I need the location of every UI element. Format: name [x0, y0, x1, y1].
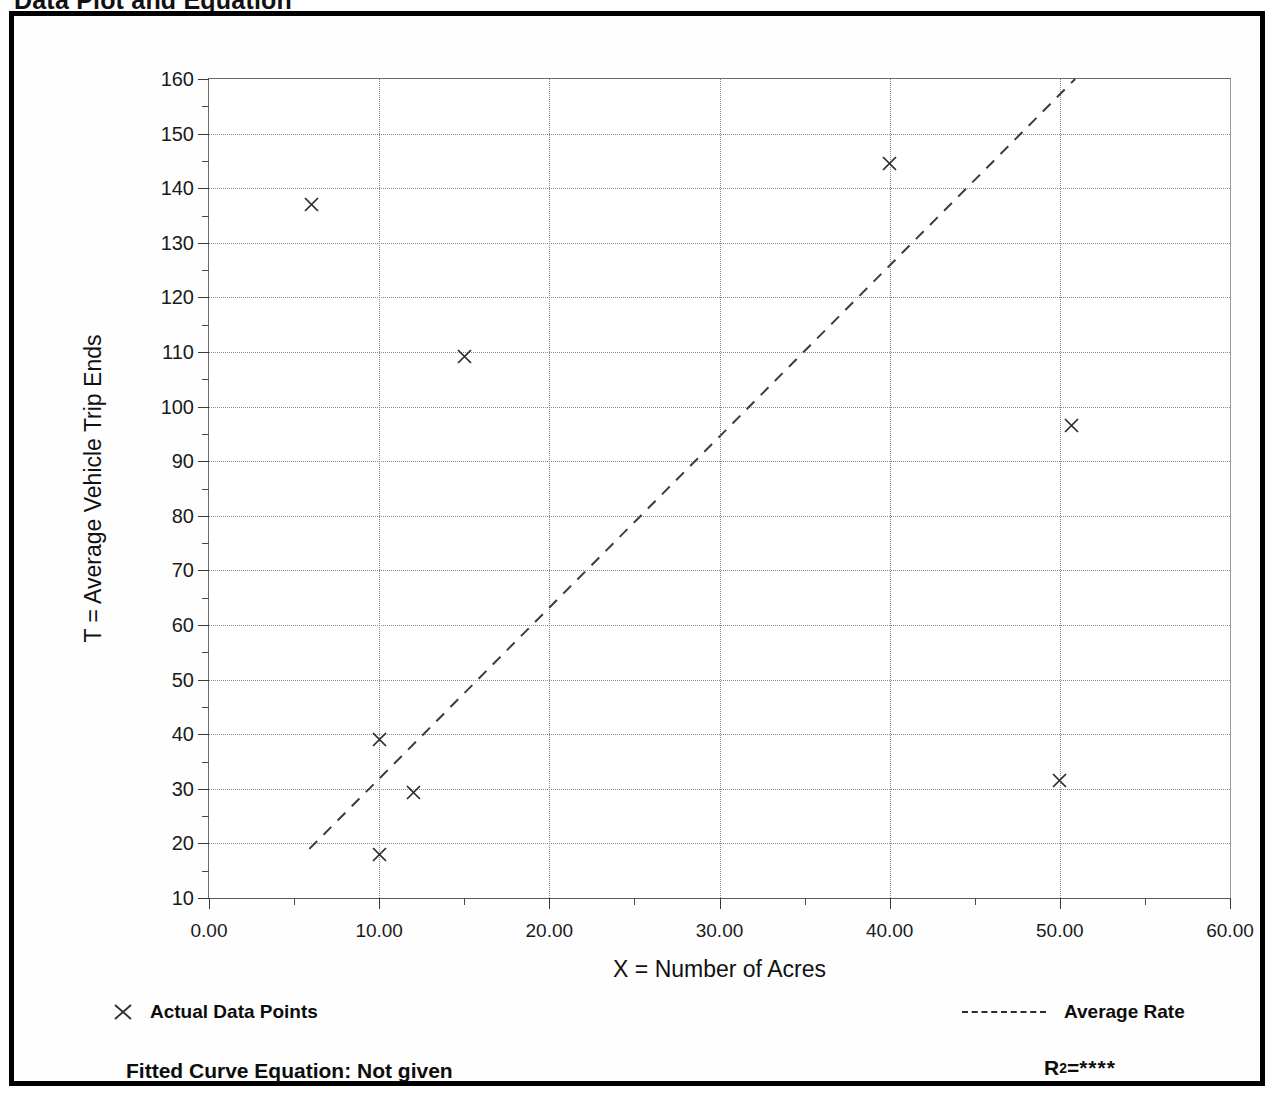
fitted-curve-equation-label: Fitted Curve Equation: Not given — [126, 1059, 453, 1083]
data-point-marker — [880, 154, 899, 173]
y-axis-tick-label: 150 — [161, 122, 194, 145]
legend-actual-data-points-label: Actual Data Points — [150, 1001, 318, 1023]
x-axis-minor-tick — [1145, 898, 1146, 905]
x-axis-tick-label: 20.00 — [526, 920, 574, 942]
y-axis-tick-label: 90 — [172, 450, 194, 473]
y-axis-tick-label: 80 — [172, 504, 194, 527]
y-axis-tick — [198, 188, 209, 189]
x-axis-tick — [209, 898, 210, 909]
average-rate-trendline — [209, 79, 1230, 898]
data-point-marker — [370, 730, 389, 749]
x-axis-tick-label: 30.00 — [696, 920, 744, 942]
y-axis-tick-label: 160 — [161, 68, 194, 91]
x-axis-tick — [1230, 898, 1231, 909]
y-axis-tick — [198, 134, 209, 135]
y-axis-tick-label: 100 — [161, 395, 194, 418]
data-point-marker — [370, 845, 389, 864]
data-point-marker — [455, 347, 474, 366]
y-axis-tick — [198, 352, 209, 353]
x-axis-minor-tick — [464, 898, 465, 905]
y-axis-tick — [198, 297, 209, 298]
y-axis-tick — [198, 516, 209, 517]
y-axis-minor-tick — [202, 434, 209, 435]
y-axis-minor-tick — [202, 325, 209, 326]
fitted-curve-equation: Fitted Curve Equation: Not given — [126, 1059, 453, 1083]
r-squared-result: **** — [1079, 1056, 1116, 1080]
y-axis-minor-tick — [202, 543, 209, 544]
r-squared-equals: = — [1067, 1056, 1079, 1080]
y-axis-tick-label: 10 — [172, 887, 194, 910]
x-axis-tick-label: 60.00 — [1206, 920, 1254, 942]
y-axis-minor-tick — [202, 871, 209, 872]
legend-average-rate-label: Average Rate — [1064, 1001, 1185, 1023]
x-axis-tick-label: 10.00 — [355, 920, 403, 942]
x-axis-minor-tick — [294, 898, 295, 905]
y-axis-tick-label: 40 — [172, 723, 194, 746]
r-squared-symbol: R — [1044, 1056, 1059, 1080]
y-axis-tick-label: 50 — [172, 668, 194, 691]
y-axis-tick-label: 20 — [172, 832, 194, 855]
legend-average-rate: Average Rate — [962, 1001, 1185, 1023]
chart-page: Data Plot and Equation T = Average Vehic… — [0, 0, 1274, 1097]
y-axis-tick — [198, 79, 209, 80]
y-axis-tick-label: 110 — [162, 341, 194, 364]
x-axis-minor-tick — [805, 898, 806, 905]
y-axis-minor-tick — [202, 270, 209, 271]
y-axis-minor-tick — [202, 106, 209, 107]
y-axis-tick-label: 70 — [172, 559, 194, 582]
y-axis-minor-tick — [202, 489, 209, 490]
chart-frame-border: T = Average Vehicle Trip Ends X = Number… — [9, 11, 1265, 1086]
trendline-segment — [309, 79, 1075, 849]
x-axis-minor-tick — [975, 898, 976, 905]
y-axis-tick — [198, 680, 209, 681]
data-point-marker — [302, 195, 321, 214]
y-axis-minor-tick — [202, 652, 209, 653]
data-point-marker — [1062, 416, 1081, 435]
legend-actual-data-points: Actual Data Points — [110, 1001, 318, 1023]
data-point-marker — [404, 783, 423, 802]
y-axis-tick-label: 60 — [172, 614, 194, 637]
y-axis-tick-label: 30 — [172, 777, 194, 800]
r-squared-value: R2 = **** — [1044, 1056, 1116, 1080]
y-axis-tick — [198, 843, 209, 844]
y-axis-tick-label: 120 — [161, 286, 194, 309]
x-axis-tick — [549, 898, 550, 909]
x-axis-tick-label: 0.00 — [191, 920, 228, 942]
y-axis-minor-tick — [202, 216, 209, 217]
plot-area: 102030405060708090100110120130140150160 … — [208, 78, 1231, 899]
y-axis-minor-tick — [202, 598, 209, 599]
y-axis-tick — [198, 461, 209, 462]
r-squared-exponent: 2 — [1059, 1060, 1067, 1076]
x-axis-title: X = Number of Acres — [208, 956, 1231, 983]
y-axis-tick — [198, 243, 209, 244]
y-axis-tick — [198, 898, 209, 899]
x-axis-tick-label: 50.00 — [1036, 920, 1084, 942]
data-point-marker — [1050, 771, 1069, 790]
y-axis-tick-label: 140 — [161, 177, 194, 200]
y-axis-tick — [198, 407, 209, 408]
y-axis-tick-label: 130 — [161, 231, 194, 254]
x-axis-tick — [379, 898, 380, 909]
x-axis-tick-label: 40.00 — [866, 920, 914, 942]
y-axis-minor-tick — [202, 379, 209, 380]
y-axis-tick — [198, 734, 209, 735]
y-axis-minor-tick — [202, 762, 209, 763]
dashed-line-icon — [962, 1011, 1046, 1013]
x-axis-tick — [720, 898, 721, 909]
y-axis-title: T = Average Vehicle Trip Ends — [76, 78, 110, 899]
x-cross-icon — [110, 1002, 136, 1022]
x-axis-tick — [1060, 898, 1061, 909]
y-axis-minor-tick — [202, 707, 209, 708]
y-axis-tick — [198, 625, 209, 626]
y-axis-minor-tick — [202, 816, 209, 817]
y-axis-minor-tick — [202, 161, 209, 162]
x-axis-minor-tick — [634, 898, 635, 905]
x-axis-tick — [890, 898, 891, 909]
y-axis-tick — [198, 789, 209, 790]
y-axis-tick — [198, 570, 209, 571]
